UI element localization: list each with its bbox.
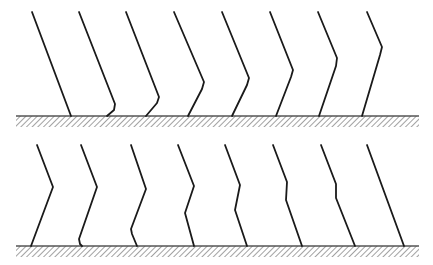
fiber-line-7 bbox=[321, 145, 355, 246]
fiber-line-5 bbox=[222, 12, 249, 116]
bending-lines-diagram bbox=[0, 0, 433, 265]
bottom-row bbox=[16, 145, 419, 257]
fiber-line-8 bbox=[362, 12, 382, 116]
fiber-line-8 bbox=[367, 145, 404, 246]
fiber-line-1 bbox=[31, 145, 53, 246]
fiber-line-1 bbox=[32, 12, 71, 116]
fiber-line-5 bbox=[225, 145, 247, 246]
fiber-line-6 bbox=[273, 145, 302, 246]
fiber-line-6 bbox=[270, 12, 293, 116]
fiber-line-2 bbox=[79, 12, 115, 116]
diagram-canvas bbox=[0, 0, 433, 265]
ground-hatch bbox=[16, 116, 419, 127]
fiber-line-7 bbox=[318, 12, 337, 116]
ground-hatch bbox=[16, 246, 419, 257]
top-row bbox=[16, 12, 419, 127]
fiber-line-3 bbox=[126, 12, 159, 116]
panels-group bbox=[16, 12, 419, 257]
fiber-line-3 bbox=[131, 145, 146, 246]
fiber-line-2 bbox=[79, 145, 97, 246]
fiber-line-4 bbox=[178, 145, 194, 246]
fiber-line-4 bbox=[174, 12, 204, 116]
